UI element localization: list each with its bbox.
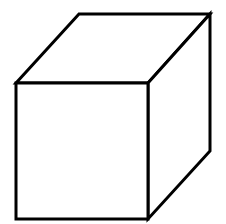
cube-drawing [0,0,226,224]
cube-diagram: Cube [0,0,226,224]
cube-front-face [16,83,148,219]
